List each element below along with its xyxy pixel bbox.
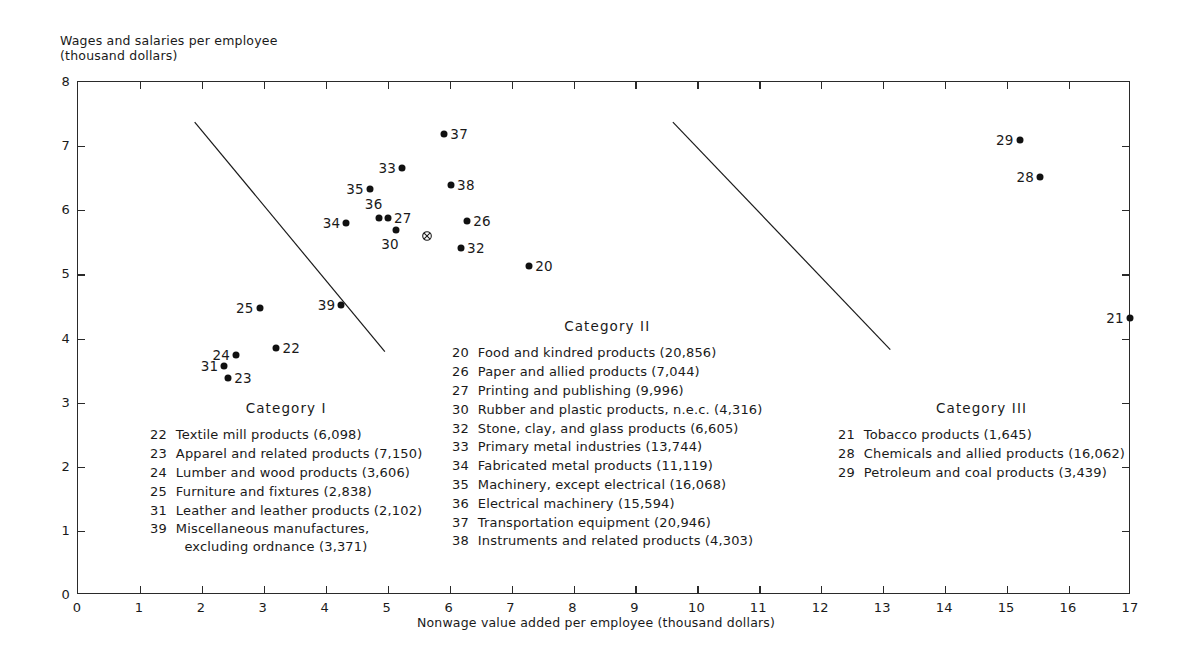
x-tick-12 [821,586,822,594]
data-point-label-31: 31 [201,358,219,374]
y-tick-label-8: 8 [62,74,70,89]
data-point-label-28: 28 [1016,169,1034,185]
x-tick-label-17: 17 [1122,600,1139,615]
x-tick-top-14 [945,81,946,89]
y-tick-label-2: 2 [62,458,70,473]
data-point-20[interactable] [526,262,533,269]
legend-entry-text: Instruments and related products (4,303) [478,532,763,551]
data-point-32[interactable] [458,244,465,251]
legend-entry: 37Transportation equipment (20,946) [452,514,762,533]
data-point-21[interactable] [1127,315,1134,322]
legend-entry-text: Petroleum and coal products (3,439) [864,464,1125,483]
x-tick-label-14: 14 [936,600,953,615]
x-tick-top-8 [574,81,575,89]
x-tick-top-12 [821,81,822,89]
x-tick-label-5: 5 [382,600,390,615]
x-tick-1 [140,586,141,594]
legend-entry-text: Tobacco products (1,645) [864,426,1125,445]
legend-entry-text: Fabricated metal products (11,119) [478,457,763,476]
y-tick-right-4 [1122,339,1130,340]
y-tick-6 [77,210,85,211]
data-point-label-21: 21 [1106,310,1124,326]
data-point-label-22: 22 [282,340,300,356]
data-point-36[interactable] [375,215,382,222]
data-point-30[interactable] [392,226,399,233]
data-point-22[interactable] [273,345,280,352]
x-tick-4 [326,586,327,594]
legend-category-2-title: Category II [452,318,762,335]
legend-entry-code: 35 [452,476,478,495]
data-point-label-20: 20 [535,258,553,274]
y-tick-1 [77,531,85,532]
data-point-label-26: 26 [473,213,491,229]
legend-entry: 29Petroleum and coal products (3,439) [838,464,1125,483]
legend-entry: 25Furniture and fixtures (2,838) [150,483,422,502]
x-tick-top-2 [202,81,203,89]
y-tick-label-5: 5 [62,266,70,281]
legend-entry: 22Textile mill products (6,098) [150,426,422,445]
data-point-26[interactable] [464,217,471,224]
y-tick-label-6: 6 [62,202,70,217]
x-tick-15 [1007,586,1008,594]
data-point-33[interactable] [399,164,406,171]
legend-entry-code: 27 [452,382,478,401]
x-tick-label-6: 6 [444,600,452,615]
x-tick-8 [574,586,575,594]
data-point-28[interactable] [1037,174,1044,181]
data-point-35[interactable] [366,185,373,192]
x-tick-top-15 [1007,81,1008,89]
legend-entry: 32Stone, clay, and glass products (6,605… [452,420,762,439]
data-point-label-37: 37 [450,126,468,142]
x-tick-top-4 [326,81,327,89]
data-point-38[interactable] [448,181,455,188]
x-tick-label-16: 16 [1060,600,1077,615]
data-point-25[interactable] [256,305,263,312]
x-tick-11 [759,586,760,594]
legend-category-3-table: 21Tobacco products (1,645)28Chemicals an… [838,426,1125,482]
legend-entry-code: 38 [452,532,478,551]
legend-entry-text: Leather and leather products (2,102) [176,502,423,521]
x-tick-label-12: 12 [812,600,829,615]
y-tick-5 [77,274,85,275]
x-tick-13 [883,586,884,594]
legend-entry: 36Electrical machinery (15,594) [452,495,762,514]
x-tick-10 [697,586,698,594]
x-tick-label-8: 8 [568,600,576,615]
legend-entry-text: Lumber and wood products (3,606) [176,464,423,483]
data-point-label-30: 30 [381,236,399,252]
legend-entry-code: 20 [452,344,478,363]
data-point-27[interactable] [384,215,391,222]
y-axis-title: Wages and salaries per employee(thousand… [60,33,278,63]
legend-entry: 23Apparel and related products (7,150) [150,445,422,464]
chart-canvas: Wages and salaries per employee(thousand… [0,0,1192,660]
legend-category-1-title: Category I [150,400,422,417]
data-point-label-32: 32 [467,240,485,256]
x-tick-top-3 [264,81,265,89]
data-point-23[interactable] [225,374,232,381]
legend-category-1: Category I 22Textile mill products (6,09… [150,400,422,557]
legend-entry-text: Furniture and fixtures (2,838) [176,483,423,502]
x-tick-label-7: 7 [506,600,514,615]
data-point-34[interactable] [343,220,350,227]
legend-entry: 39Miscellaneous manufactures, excluding … [150,520,422,556]
data-point-29[interactable] [1016,136,1023,143]
y-tick-label-3: 3 [62,394,70,409]
data-point-37[interactable] [441,131,448,138]
y-tick-2 [77,467,85,468]
data-point-label-34: 34 [323,215,341,231]
legend-entry-text: Apparel and related products (7,150) [176,445,423,464]
legend-entry-code: 21 [838,426,864,445]
x-tick-top-10 [697,81,698,89]
y-tick-label-1: 1 [62,522,70,537]
data-point-39[interactable] [338,301,345,308]
data-point-31[interactable] [221,363,228,370]
legend-entry: 26Paper and allied products (7,044) [452,363,762,382]
data-point-label-25: 25 [236,300,254,316]
legend-entry: 31Leather and leather products (2,102) [150,502,422,521]
y-tick-right-6 [1122,210,1130,211]
data-point-24[interactable] [233,351,240,358]
x-tick-5 [388,586,389,594]
legend-entry-code: 39 [150,520,176,556]
legend-entry-text: Paper and allied products (7,044) [478,363,763,382]
x-tick-9 [635,586,636,594]
